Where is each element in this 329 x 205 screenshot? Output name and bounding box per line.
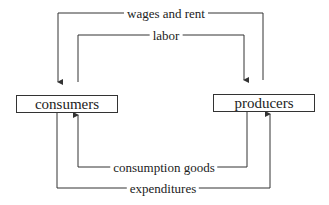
circular-flow-diagram: consumers producers wages and rent labor… (0, 0, 329, 205)
producers-box: producers (213, 94, 315, 112)
wages-and-rent-label: wages and rent (124, 7, 208, 20)
expenditures-label: expenditures (127, 182, 199, 195)
wages-and-rent-arrow (58, 13, 263, 82)
consumption-goods-label: consumption goods (110, 161, 217, 174)
expenditures-arrow (57, 112, 270, 188)
producers-label: producers (234, 95, 293, 112)
consumers-box: consumers (16, 95, 118, 113)
labor-label: labor (150, 29, 183, 42)
consumers-label: consumers (35, 96, 99, 113)
